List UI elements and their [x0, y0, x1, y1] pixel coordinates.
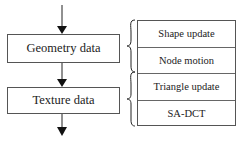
component-node-motion: Node motion: [138, 48, 235, 75]
texture-data-box: Texture data: [7, 87, 120, 114]
component-label: Triangle update: [154, 81, 220, 92]
component-label: Shape update: [158, 28, 214, 39]
components-table: Shape update Node motion Triangle update…: [137, 20, 236, 126]
component-sa-dct: SA-DCT: [138, 101, 235, 128]
component-label: SA-DCT: [168, 108, 206, 119]
middle-arrowhead-icon: [57, 79, 67, 87]
geometry-data-box: Geometry data: [7, 34, 120, 63]
input-arrowhead-icon: [57, 26, 67, 34]
geometry-brace-icon: [127, 20, 135, 72]
texture-brace-icon: [127, 72, 135, 126]
component-label: Node motion: [159, 55, 214, 66]
geometry-data-label: Geometry data: [27, 41, 101, 56]
component-triangle-update: Triangle update: [138, 74, 235, 101]
component-shape-update: Shape update: [138, 21, 235, 48]
texture-data-label: Texture data: [33, 93, 95, 108]
output-arrowhead-icon: [57, 127, 67, 136]
